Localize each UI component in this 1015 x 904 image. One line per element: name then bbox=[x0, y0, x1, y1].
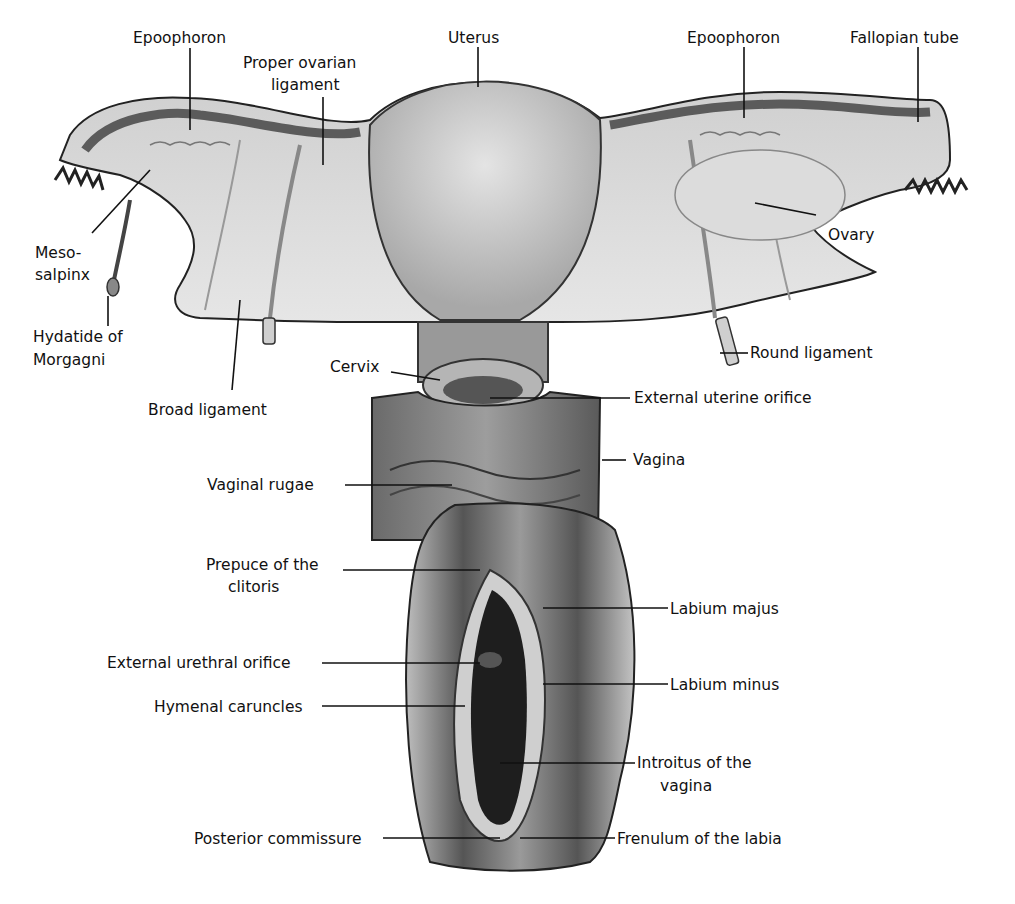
label-prepuce-of-clitoris: Prepuce of the bbox=[206, 556, 319, 574]
label-vaginal-rugae: Vaginal rugae bbox=[207, 476, 314, 494]
label-round-ligament: Round ligament bbox=[750, 344, 872, 362]
label-broad-ligament: Broad ligament bbox=[148, 401, 267, 419]
label-epoophoron-right: Epoophoron bbox=[687, 29, 780, 47]
anatomy-figure: Epoophoron Proper ovarian ligament Uteru… bbox=[0, 0, 1015, 904]
label-mesosalpinx-2: salpinx bbox=[35, 266, 90, 284]
label-posterior-commissure: Posterior commissure bbox=[194, 830, 361, 848]
vulva-shape bbox=[406, 503, 634, 870]
label-vagina: Vagina bbox=[633, 451, 685, 469]
label-fallopian-tube: Fallopian tube bbox=[850, 29, 959, 47]
label-mesosalpinx: Meso- bbox=[35, 244, 81, 262]
label-hymenal-caruncles: Hymenal caruncles bbox=[154, 698, 303, 716]
label-ovary: Ovary bbox=[828, 226, 874, 244]
label-prepuce-of-clitoris-2: clitoris bbox=[228, 578, 279, 596]
label-epoophoron-left: Epoophoron bbox=[133, 29, 226, 47]
round-ligament-right-shape bbox=[715, 316, 739, 365]
label-labium-minus: Labium minus bbox=[670, 676, 779, 694]
label-labium-majus: Labium majus bbox=[670, 600, 779, 618]
label-external-uterine-orifice: External uterine orifice bbox=[634, 389, 812, 407]
label-uterus: Uterus bbox=[448, 29, 499, 47]
round-ligament-left-shape bbox=[263, 318, 275, 344]
label-proper-ovarian-ligament: Proper ovarian bbox=[243, 54, 356, 72]
label-hydatide-of-morgagni-2: Morgagni bbox=[33, 351, 105, 369]
label-proper-ovarian-ligament-2: ligament bbox=[271, 76, 340, 94]
label-introitus-of-vagina-2: vagina bbox=[660, 777, 712, 795]
label-cervix: Cervix bbox=[330, 358, 379, 376]
label-external-urethral-orifice: External urethral orifice bbox=[107, 654, 291, 672]
label-hydatide-of-morgagni: Hydatide of bbox=[33, 328, 123, 346]
label-frenulum-of-labia: Frenulum of the labia bbox=[617, 830, 782, 848]
label-introitus-of-vagina: Introitus of the bbox=[637, 754, 752, 772]
